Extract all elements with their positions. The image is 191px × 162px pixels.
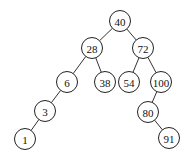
edge-6-3 [51,90,60,102]
edge-100-80 [152,92,157,103]
node-label: 38 [100,77,112,89]
edge-28-6 [73,56,86,73]
tree-node-1: 1 [15,129,36,150]
edge-3-1 [31,120,39,131]
edge-28-38 [96,58,102,72]
node-label: 54 [124,77,136,89]
node-label: 3 [42,106,48,118]
node-label: 91 [164,133,175,145]
node-label: 28 [87,43,99,55]
node-label: 72 [138,43,149,55]
node-label: 40 [115,16,127,28]
edge-72-54 [133,58,139,73]
tree-node-40: 40 [110,11,131,32]
edge-80-91 [155,120,163,130]
edge-40-72 [127,29,136,40]
tree-node-80: 80 [138,102,159,123]
tree-node-28: 28 [82,38,103,59]
node-label: 1 [22,134,28,146]
tree-nodes: 40287263854100380191 [15,11,180,150]
tree-node-38: 38 [95,72,116,93]
tree-node-3: 3 [35,101,56,122]
edge-72-100 [148,57,156,72]
edge-40-28 [100,28,113,40]
tree-node-72: 72 [133,38,154,59]
tree-diagram: 40287263854100380191 [0,0,191,162]
node-label: 100 [153,77,170,89]
tree-node-54: 54 [119,72,140,93]
tree-node-6: 6 [57,72,78,93]
tree-node-100: 100 [151,72,172,93]
tree-node-91: 91 [159,128,180,149]
node-label: 6 [64,77,70,89]
node-label: 80 [143,107,155,119]
